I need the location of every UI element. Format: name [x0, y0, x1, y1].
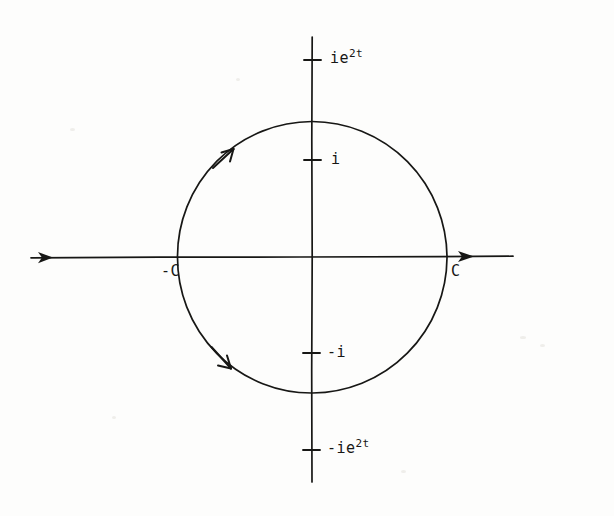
paper-speck	[401, 470, 406, 473]
tick-label-i: i	[331, 152, 341, 167]
tick-label-minus-i: -i	[327, 345, 346, 360]
real-axis-line	[31, 256, 513, 258]
tick-label-ie2t-base: ie	[330, 49, 349, 67]
paper-speck	[70, 128, 75, 131]
label-minus-c: -C	[161, 264, 180, 279]
paper-speck	[540, 344, 545, 347]
tick-label-minus-ie2t-exponent: 2t	[356, 437, 370, 450]
real-axis-group	[31, 251, 513, 263]
paper-speck	[112, 416, 116, 419]
tick-label-i-base: i	[331, 150, 341, 168]
imaginary-axis-line	[312, 37, 313, 482]
tick-label-ie2t-exponent: 2t	[349, 47, 363, 60]
paper-speck	[236, 78, 240, 81]
contour-arrowhead-lower	[212, 347, 232, 369]
tick-label-ie2t: ie2t	[330, 51, 363, 66]
contour-arrowhead-upper	[213, 149, 234, 168]
imaginary-axis-group	[312, 37, 313, 482]
tick-label-minus-i-base: -i	[327, 343, 346, 361]
diagram-canvas	[0, 0, 614, 516]
label-c: C	[451, 264, 461, 279]
complex-plane-figure: ie2t i -i -ie2t -C C	[0, 0, 614, 516]
tick-label-minus-ie2t-base: -ie	[327, 439, 356, 457]
tick-label-minus-ie2t: -ie2t	[327, 441, 369, 456]
paper-speck	[520, 336, 526, 339]
